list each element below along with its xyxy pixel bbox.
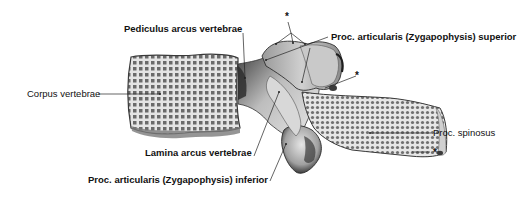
asterisk-marker-middle: * <box>355 71 359 81</box>
proc-spinosus-shape <box>302 92 447 157</box>
asterisk-marker-top: * <box>285 12 289 22</box>
label-proc-articularis-superior: Proc. articularis (Zygapophysis) superio… <box>331 32 516 42</box>
asterisk-marker-right: * <box>433 148 437 158</box>
label-corpus-vertebrae: Corpus vertebrae <box>27 89 100 99</box>
label-lamina-arcus-vertebrae: Lamina arcus vertebrae <box>145 148 252 158</box>
proc-articularis-inferior-shape <box>282 126 322 174</box>
label-proc-spinosus: Proc. spinosus <box>433 128 495 138</box>
anatomy-figure: Pediculus arcus vertebrae Proc. articula… <box>0 0 531 197</box>
label-pediculus-arcus-vertebrae: Pediculus arcus vertebrae <box>124 24 242 34</box>
corpus-vertebrae-shape <box>128 54 240 138</box>
label-proc-articularis-inferior: Proc. articularis (Zygapophysis) inferio… <box>88 175 268 185</box>
